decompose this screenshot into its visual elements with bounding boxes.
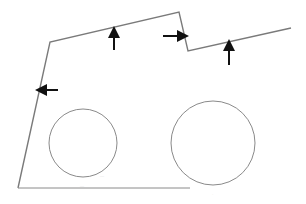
diagram-canvas (0, 0, 306, 204)
left-circle-label: — (100, 173, 104, 178)
right-circle-label: · (212, 192, 213, 197)
holes-group (49, 101, 255, 185)
plate-outline (18, 12, 291, 188)
left-hole-circle (49, 109, 117, 177)
base-line-label: — (80, 183, 84, 188)
right-hole-circle (171, 101, 255, 185)
force-arrows-group (41, 32, 229, 90)
